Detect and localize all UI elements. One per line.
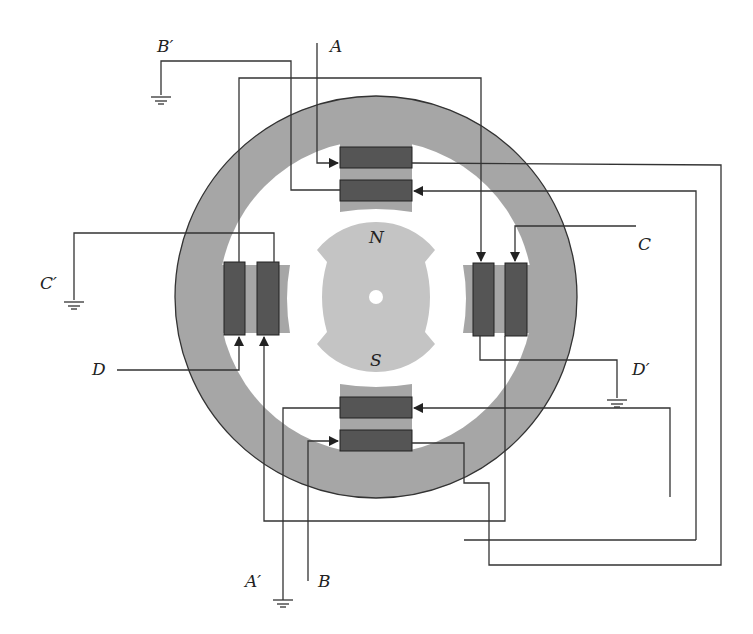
rotor-shaft [369, 290, 383, 304]
rotor-south-label: S [370, 350, 382, 370]
coil-left-D [257, 262, 279, 335]
ground-D-prime-icon [607, 400, 627, 407]
coil-right-C [505, 263, 527, 336]
rotor-north-label: N [368, 227, 385, 247]
label-D: D [91, 359, 106, 379]
label-A-prime: A′ [243, 571, 261, 591]
ground-B-prime-icon [151, 97, 171, 104]
coil-top-A [340, 147, 412, 168]
label-B: B [317, 571, 331, 591]
coil-top-B-prime [340, 180, 412, 201]
label-C-prime: C′ [40, 273, 57, 293]
stepper-motor-diagram: N S [0, 0, 753, 634]
label-A: A [328, 36, 342, 56]
coil-bottom-B [340, 430, 412, 451]
coil-left-C-prime [224, 262, 245, 335]
ground-A-prime-icon [273, 600, 293, 607]
label-C: C [638, 234, 651, 254]
coil-bottom-A-prime [340, 397, 412, 418]
label-D-prime: D′ [631, 359, 650, 379]
label-B-prime: B′ [156, 36, 173, 56]
rotor: N S [317, 222, 435, 372]
coil-right-D-prime [473, 263, 494, 336]
ground-C-prime-icon [64, 302, 84, 309]
